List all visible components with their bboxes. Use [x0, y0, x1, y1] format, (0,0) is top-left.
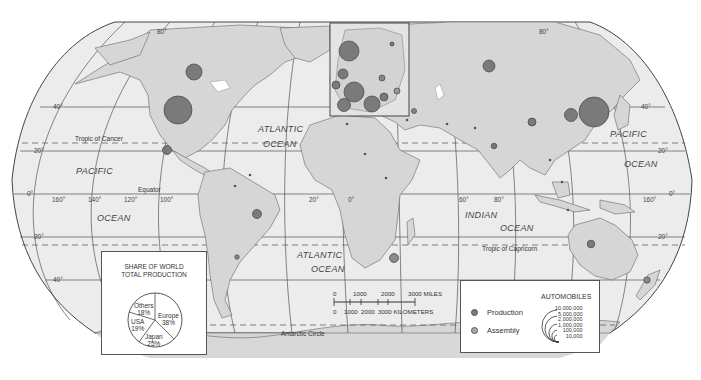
- pie-label-europe-name: Europe: [158, 312, 179, 319]
- finland-circle: [390, 42, 394, 46]
- ocean-label-pacific-w-1: PACIFIC: [76, 167, 113, 176]
- scale-miles-1000: 1000: [353, 290, 367, 297]
- lon-label-100w: 100°: [160, 197, 173, 204]
- south-africa-circle: [390, 254, 399, 263]
- legend-assembly-label: Assembly: [487, 326, 520, 335]
- korea-circle: [565, 109, 578, 122]
- lon-label-20w: 20°: [309, 197, 319, 204]
- lon-label-60e: 60°: [459, 197, 469, 204]
- size-10000: 10,000: [555, 334, 583, 340]
- ocean-label-pacific-e-2: OCEAN: [624, 160, 658, 169]
- scale-km-2000: 2000: [361, 308, 375, 315]
- equator-label: Equator: [138, 187, 161, 194]
- japan-circle: [579, 97, 609, 127]
- share-of-production-box: SHARE OF WORLD TOTAL PRODUCTION Others 1…: [101, 251, 207, 355]
- assembly-dot-icon: [471, 327, 478, 334]
- canada-circle: [186, 64, 202, 80]
- lat-label-40n-w: 40°: [53, 104, 63, 111]
- legend-size-values: 10,000,000 5,000,000 2,000,000 1,000,000…: [555, 306, 583, 340]
- pie-label-others-name: Others: [134, 302, 154, 309]
- scale-km-3000: 3000 KILOMETERS: [378, 308, 433, 315]
- legend-title: AUTOMOBILES: [541, 293, 591, 300]
- turkey-circle: [412, 109, 417, 114]
- lat-label-80n-w: 80°: [157, 29, 167, 36]
- argentina-circle: [235, 255, 239, 259]
- lat-label-20n-e: 20°: [658, 148, 668, 155]
- pie-label-japan-name: Japan: [145, 333, 163, 340]
- russia-circle: [483, 60, 495, 72]
- ocean-label-atlantic-n-1: ATLANTIC: [258, 125, 303, 134]
- uk-circle: [338, 69, 348, 79]
- sweden-circle: [339, 41, 359, 61]
- pie-label-others: Others 18%: [134, 302, 154, 316]
- legend-item-assembly: Assembly: [471, 326, 520, 335]
- ocean-label-atlantic-s-2: OCEAN: [311, 265, 345, 274]
- lat-label-20n-w: 20°: [34, 148, 44, 155]
- scale-miles-0: 0: [333, 290, 336, 297]
- usa-circle: [164, 96, 192, 124]
- scale-miles-2000: 2000: [381, 290, 395, 297]
- spain-circle: [380, 93, 388, 101]
- pie-label-europe-value: 38%: [158, 319, 179, 326]
- antarctic-circle-label: Antarctic Circle: [281, 331, 325, 338]
- ocean-label-pacific-e-1: PACIFIC: [610, 130, 647, 139]
- pie-label-japan: Japan 25%: [145, 333, 163, 347]
- scale-km-0: 0: [333, 308, 336, 315]
- lat-label-40s-w: 40°: [53, 277, 63, 284]
- automobiles-legend: AUTOMOBILES Production Assembly 10,000,0…: [460, 280, 600, 353]
- tropic-of-capricorn-label: Tropic of Capricorn: [482, 246, 537, 253]
- china-circle: [528, 118, 536, 126]
- italy-circle: [364, 96, 380, 112]
- ocean-label-indian-2: OCEAN: [500, 224, 534, 233]
- pie-label-others-value: 18%: [134, 309, 154, 316]
- france-circle: [338, 99, 351, 112]
- lat-label-20s-e: 20°: [658, 234, 668, 241]
- lat-label-20s-w: 20°: [34, 234, 44, 241]
- production-dot-icon: [471, 309, 478, 316]
- lat-label-0-w: 0°: [27, 191, 33, 198]
- ocean-label-pacific-w-2: OCEAN: [97, 214, 131, 223]
- poland-circle: [379, 75, 385, 81]
- ocean-label-indian-1: INDIAN: [465, 211, 497, 220]
- lat-label-40n-e: 40°: [641, 104, 651, 111]
- brazil-circle: [253, 210, 262, 219]
- ocean-label-atlantic-n-2: OCEAN: [263, 140, 297, 149]
- lon-label-140w: 140°: [88, 197, 101, 204]
- tropic-of-cancer-label: Tropic of Cancer: [75, 136, 123, 143]
- mexico-circle: [163, 146, 172, 155]
- lon-label-120w: 120°: [124, 197, 137, 204]
- lat-label-80n-e: 80°: [539, 29, 549, 36]
- ukraine-circle: [394, 88, 400, 94]
- australia-circle: [587, 240, 595, 248]
- pie-label-usa-value: 19%: [131, 325, 144, 332]
- pie-label-usa-name: USA: [131, 318, 144, 325]
- scale-bar-ruler: [333, 298, 423, 306]
- legend-item-production: Production: [471, 308, 523, 317]
- lat-label-0-e: 0°: [669, 191, 675, 198]
- scale-km-1000: 1000: [344, 308, 358, 315]
- lon-label-160e: 160°: [643, 197, 656, 204]
- lon-label-80e: 80°: [494, 197, 504, 204]
- pie-label-usa: USA 19%: [131, 318, 144, 332]
- lon-label-160w: 160°: [52, 197, 65, 204]
- scale-miles-3000: 3000 MILES: [408, 290, 442, 297]
- ocean-label-atlantic-s-1: ATLANTIC: [297, 251, 342, 260]
- new-zealand-circle: [644, 277, 650, 283]
- india-circle: [491, 143, 497, 149]
- legend-production-label: Production: [487, 308, 523, 317]
- lon-label-0: 0°: [348, 197, 354, 204]
- pie-label-japan-value: 25%: [145, 340, 163, 347]
- pie-label-europe: Europe 38%: [158, 312, 179, 326]
- belgium-circle: [332, 81, 340, 89]
